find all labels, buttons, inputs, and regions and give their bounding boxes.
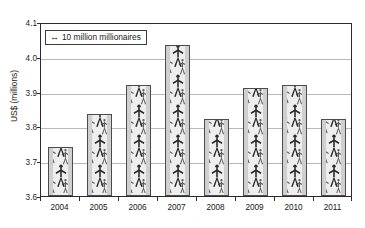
bar (243, 88, 268, 196)
bar-right-edge (68, 148, 72, 195)
x-axis-tick (40, 197, 41, 201)
x-axis-tick (196, 197, 197, 201)
bar (282, 85, 307, 196)
bar-left-edge (244, 89, 248, 195)
bar-left-edge (127, 86, 131, 195)
bar-fill (53, 148, 68, 195)
bar (126, 85, 151, 196)
bar-left-edge (322, 120, 326, 195)
bar-left-edge (49, 148, 53, 195)
human-figure-pictogram-icon (287, 86, 302, 195)
x-axis-tick (235, 197, 236, 201)
x-axis: 20042005200620072008200920102011 (40, 197, 352, 223)
x-axis-tick (274, 197, 275, 201)
bar-fill (170, 46, 185, 195)
bar-fill (131, 86, 146, 195)
x-axis-tick (118, 197, 119, 201)
legend-box: ↔ 10 million millionaires (45, 30, 147, 45)
x-axis-tick-label: 2004 (50, 203, 68, 212)
x-axis-tick-label: 2010 (284, 203, 302, 212)
legend-label: 10 million millionaires (62, 32, 141, 42)
bar (87, 114, 112, 196)
bar-right-edge (302, 86, 306, 195)
bar-left-edge (205, 120, 209, 195)
y-axis-tick-label: 4.1 (26, 19, 37, 28)
bar-fill (92, 115, 107, 195)
human-figure-pictogram-icon (209, 120, 224, 195)
plot-area: ↔ 10 million millionaires (40, 23, 352, 197)
cropped-caption-remnant: Figure 1. Global average wealth per mill… (0, 0, 365, 9)
bar-right-edge (146, 86, 150, 195)
x-axis-tick-label: 2009 (245, 203, 263, 212)
y-axis-tick-label: 3.8 (26, 123, 37, 132)
x-axis-tick (351, 197, 352, 201)
x-axis-tick-label: 2005 (89, 203, 107, 212)
bar-fill (209, 120, 224, 195)
bar-chart-figure: US$ (millions) 3.63.73.83.94.04.1 (0, 9, 365, 228)
y-axis-tick-labels: 3.63.73.83.94.04.1 (0, 23, 37, 197)
y-axis-tick-label: 3.6 (26, 193, 37, 202)
y-axis-tick-label: 3.9 (26, 88, 37, 97)
bar-right-edge (185, 46, 189, 195)
human-figure-pictogram-icon (326, 120, 341, 195)
bar-right-edge (263, 89, 267, 195)
x-axis-tick (313, 197, 314, 201)
x-axis-tick-label: 2006 (128, 203, 146, 212)
human-figure-pictogram-icon (53, 148, 68, 195)
bar-fill (326, 120, 341, 195)
left-right-arrow-icon: ↔ (50, 33, 59, 42)
human-figure-pictogram-icon (170, 46, 185, 195)
human-figure-pictogram-icon (92, 115, 107, 195)
bar-fill (287, 86, 302, 195)
bar-fill (248, 89, 263, 195)
bar (48, 147, 73, 196)
bar-right-edge (107, 115, 111, 195)
bar (165, 45, 190, 196)
bar (321, 119, 346, 196)
human-figure-pictogram-icon (248, 89, 263, 195)
x-axis-tick-label: 2011 (324, 203, 342, 212)
x-axis-tick (79, 197, 80, 201)
bar-left-edge (88, 115, 92, 195)
human-figure-pictogram-icon (131, 86, 146, 195)
bar-left-edge (283, 86, 287, 195)
y-axis-tick-label: 3.7 (26, 158, 37, 167)
x-axis-tick (157, 197, 158, 201)
gridline (41, 59, 351, 60)
bar-right-edge (224, 120, 228, 195)
bar-left-edge (166, 46, 170, 195)
bar-right-edge (341, 120, 345, 195)
y-axis-tick-label: 4.0 (26, 53, 37, 62)
x-axis-tick-label: 2007 (167, 203, 185, 212)
bar (204, 119, 229, 196)
x-axis-tick-label: 2008 (206, 203, 224, 212)
